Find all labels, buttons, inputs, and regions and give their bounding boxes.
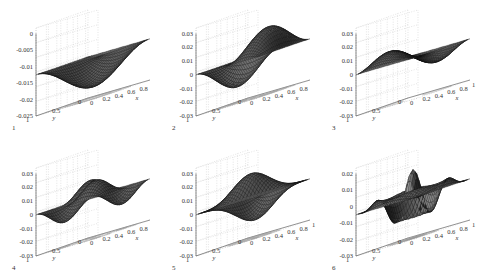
x-axis-label: x <box>295 234 298 241</box>
x-tick-label: 0.2 <box>422 236 430 243</box>
z-tick-label: 0 <box>161 212 193 219</box>
x-tick-label: 0.4 <box>115 233 123 240</box>
x-tick-label: 0 <box>250 100 253 107</box>
z-tick-label: -0.01 <box>161 226 193 233</box>
z-tick-label: -0.02 <box>1 97 33 104</box>
panel-number: 5 <box>172 264 176 272</box>
surface-plot-panel-1: 0-0.005-0.01-0.015-0.02-0.02510.5000.20.… <box>0 0 162 140</box>
y-tick-label: 0 <box>398 239 401 246</box>
panel-number: 3 <box>332 124 336 132</box>
z-tick-label: -0.02 <box>161 239 193 246</box>
y-tick-label: 1 <box>186 117 189 124</box>
y-axis-label: y <box>373 254 376 261</box>
z-tick-label: -0.005 <box>1 47 33 54</box>
y-axis-label: y <box>213 254 216 261</box>
z-tick-label: 0 <box>1 212 33 219</box>
y-tick-label: 1 <box>26 117 29 124</box>
y-tick-label: 1 <box>346 257 349 264</box>
z-tick-label: 0.02 <box>1 184 33 191</box>
y-tick-label: 1 <box>26 257 29 264</box>
y-axis-label: y <box>53 114 56 121</box>
x-tick-label: 0.2 <box>102 236 110 243</box>
z-tick-label: -0.01 <box>321 220 353 227</box>
y-tick-label: 0 <box>238 99 241 106</box>
x-tick-label: 0.4 <box>435 233 443 240</box>
y-axis-label: y <box>373 114 376 121</box>
z-tick-label: 0.01 <box>1 198 33 205</box>
x-axis-label: x <box>455 94 458 101</box>
x-tick-label: 0.2 <box>102 96 110 103</box>
z-tick-label: -0.01 <box>161 86 193 93</box>
z-tick-label: -0.015 <box>1 80 33 87</box>
x-axis-label: x <box>135 234 138 241</box>
z-tick-label: 0 <box>321 204 353 211</box>
x-tick-label: 0 <box>90 240 93 247</box>
panel-number: 2 <box>172 124 176 132</box>
z-tick-label: 0.01 <box>161 58 193 65</box>
panel-number: 4 <box>12 264 16 272</box>
y-tick-label: 1 <box>186 257 189 264</box>
z-tick-label: 0.02 <box>161 44 193 51</box>
z-tick-label: 0 <box>321 72 353 79</box>
y-tick-label: 0 <box>238 239 241 246</box>
z-tick-label: 0.02 <box>321 171 353 178</box>
x-tick-label: 0 <box>410 100 413 107</box>
x-tick-label: 0.2 <box>422 96 430 103</box>
x-axis-label: x <box>455 234 458 241</box>
x-tick-label: 0.8 <box>300 226 308 233</box>
z-tick-label: -0.01 <box>1 226 33 233</box>
x-tick-label: 0.8 <box>460 86 468 93</box>
x-tick-label: 0.4 <box>115 93 123 100</box>
x-tick-label: 0 <box>90 100 93 107</box>
z-tick-label: 0 <box>161 72 193 79</box>
z-tick-label: 0.03 <box>161 31 193 38</box>
x-tick-label: 0.8 <box>140 226 148 233</box>
x-tick-label: 0.2 <box>262 96 270 103</box>
x-tick-label: 0.4 <box>275 233 283 240</box>
z-tick-label: 0.02 <box>321 44 353 51</box>
surface-plot-panel-6: 0.020.010-0.01-0.02-0.0310.5010.80.60.40… <box>320 140 482 280</box>
surface-plot-panel-5: 0.030.020.010-0.01-0.02-0.0310.5010.80.6… <box>160 140 322 280</box>
z-tick-label: -0.02 <box>1 239 33 246</box>
z-tick-label: -0.02 <box>321 237 353 244</box>
y-axis-label: y <box>213 114 216 121</box>
y-tick-label: 0 <box>78 239 81 246</box>
x-tick-label: 0 <box>410 240 413 247</box>
x-tick-label: 0 <box>250 240 253 247</box>
x-tick-label: 0.8 <box>140 86 148 93</box>
x-tick-label: 1 <box>472 82 475 89</box>
y-tick-label: 1 <box>346 117 349 124</box>
x-axis-label: x <box>135 94 138 101</box>
x-tick-label: 0.4 <box>275 93 283 100</box>
x-tick-label: 0.8 <box>300 86 308 93</box>
z-tick-label: 0.03 <box>1 171 33 178</box>
z-tick-label: -0.02 <box>161 99 193 106</box>
y-axis-label: y <box>53 254 56 261</box>
z-tick-label: 0.03 <box>161 171 193 178</box>
x-tick-label: 1 <box>312 222 315 229</box>
surface-plot-panel-4: 0.030.020.010-0.01-0.02-0.0310.5000.20.4… <box>0 140 162 280</box>
z-tick-label: -0.01 <box>1 64 33 71</box>
x-tick-label: 0.2 <box>262 236 270 243</box>
x-axis-label: x <box>295 94 298 101</box>
x-tick-label: 0.4 <box>435 93 443 100</box>
y-tick-label: 0 <box>78 99 81 106</box>
z-tick-label: 0.02 <box>161 184 193 191</box>
y-tick-label: 0 <box>398 99 401 106</box>
z-tick-label: 0.01 <box>321 58 353 65</box>
x-tick-label: 1 <box>472 222 475 229</box>
z-tick-label: 0.01 <box>321 187 353 194</box>
surface-plot-panel-2: 0.030.020.010-0.01-0.02-0.0310.5000.20.4… <box>160 0 322 140</box>
z-tick-label: -0.01 <box>321 86 353 93</box>
panel-number: 1 <box>12 124 16 132</box>
z-tick-label: 0.01 <box>161 198 193 205</box>
x-tick-label: 0.8 <box>460 226 468 233</box>
surface-plot-panel-3: 0.030.020.010-0.01-0.02-0.0310.5010.80.6… <box>320 0 482 140</box>
z-tick-label: 0.03 <box>321 31 353 38</box>
z-tick-label: -0.02 <box>321 99 353 106</box>
panel-number: 6 <box>332 264 336 272</box>
z-tick-label: 0 <box>1 31 33 38</box>
